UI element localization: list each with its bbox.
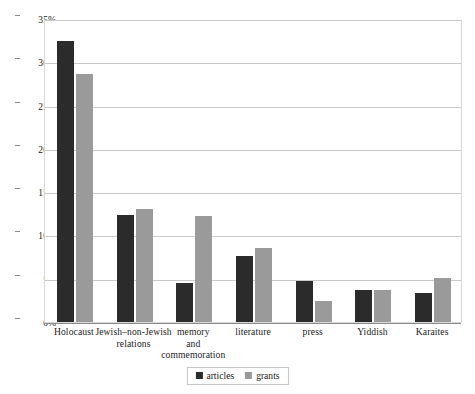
legend-label: articles xyxy=(206,370,234,381)
bar-group xyxy=(45,20,105,322)
legend-swatch-grants xyxy=(245,372,252,379)
y-tick-mark xyxy=(15,145,20,146)
bar-articles xyxy=(117,215,134,322)
legend-label: grants xyxy=(256,370,279,381)
x-axis-label-line: Karaites xyxy=(392,326,472,338)
legend: articlesgrants xyxy=(186,367,288,385)
gridline-0 xyxy=(45,323,461,324)
bar-articles xyxy=(296,281,313,322)
y-tick-mark xyxy=(15,102,20,103)
y-tick-mark xyxy=(15,318,20,319)
y-tick-mark xyxy=(15,58,20,59)
bar-chart: 0%5%10%15%20%25%30%35% HolocaustJewish–n… xyxy=(0,0,475,394)
y-tick-mark xyxy=(15,188,20,189)
legend-item-articles[interactable]: articles xyxy=(195,370,234,381)
x-axis-label: Karaites xyxy=(392,326,472,338)
plot-area xyxy=(44,20,462,323)
bar-articles xyxy=(236,256,253,322)
bar-articles xyxy=(176,283,193,322)
bar-grants xyxy=(195,216,212,322)
bar-grants xyxy=(315,301,332,322)
bar-grants xyxy=(374,290,391,322)
x-axis-label-line: and xyxy=(153,338,233,350)
x-axis-label-line: commemoration xyxy=(153,349,233,361)
bar-grants xyxy=(136,209,153,322)
bar-group xyxy=(344,20,404,322)
bar-group xyxy=(105,20,165,322)
bar-grants xyxy=(434,278,451,322)
bar-group xyxy=(224,20,284,322)
bar-group xyxy=(403,20,463,322)
bar-grants xyxy=(76,74,93,322)
bar-group xyxy=(164,20,224,322)
y-tick-mark xyxy=(15,231,20,232)
y-tick-mark xyxy=(15,275,20,276)
bar-group xyxy=(284,20,344,322)
bar-articles xyxy=(57,41,74,322)
y-tick-mark xyxy=(15,15,20,16)
legend-item-grants[interactable]: grants xyxy=(245,370,279,381)
bar-articles xyxy=(355,290,372,322)
legend-swatch-articles xyxy=(195,372,202,379)
bar-grants xyxy=(255,248,272,322)
bar-articles xyxy=(415,293,432,322)
bars-layer xyxy=(45,20,461,322)
